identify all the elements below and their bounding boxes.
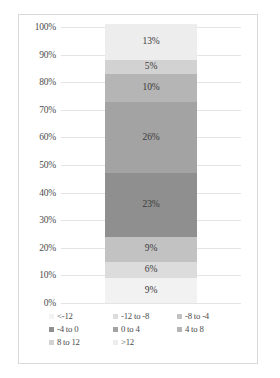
legend-swatch: [113, 340, 118, 345]
legend-item[interactable]: -8 to -4: [177, 311, 239, 321]
legend-swatch: [113, 314, 118, 319]
legend-swatch: [177, 327, 182, 332]
y-axis-tick-label: 10%: [39, 270, 56, 280]
bar-segment-value-label: 13%: [143, 37, 160, 47]
bar-segment[interactable]: 10%: [105, 74, 197, 102]
bar-segment-value-label: 10%: [143, 83, 160, 93]
y-axis-tick-label: 30%: [39, 215, 56, 225]
chart-frame: 0%10%20%30%40%50%60%70%80%90%100% 9%6%9%…: [18, 14, 258, 364]
legend-label: <-12: [57, 311, 73, 321]
legend-swatch: [49, 340, 54, 345]
y-axis-tick-label: 20%: [39, 243, 56, 253]
bar-segment[interactable]: 9%: [105, 237, 197, 262]
y-axis-tick-label: 100%: [35, 22, 56, 32]
legend-label: 4 to 8: [185, 324, 204, 334]
y-axis-tick-label: 60%: [39, 132, 56, 142]
bar-segment-value-label: 9%: [145, 286, 157, 296]
legend-item[interactable]: 8 to 12: [49, 337, 111, 347]
legend: <-12-12 to -8-8 to -4-4 to 00 to 44 to 8…: [49, 311, 239, 347]
bar-segment[interactable]: 9%: [105, 278, 197, 303]
y-axis-tick-label: 80%: [39, 77, 56, 87]
bar-segment-value-label: 23%: [143, 200, 160, 210]
legend-item[interactable]: -12 to -8: [113, 311, 175, 321]
legend-label: 8 to 12: [57, 337, 80, 347]
legend-label: -12 to -8: [121, 311, 149, 321]
y-axis-tick-label: 90%: [39, 50, 56, 60]
bar-segment-value-label: 9%: [145, 244, 157, 254]
gridline: [61, 303, 241, 304]
legend-item[interactable]: 4 to 8: [177, 324, 239, 334]
bar-segment[interactable]: 13%: [105, 24, 197, 60]
y-axis-tick-label: 50%: [39, 160, 56, 170]
bar-segment[interactable]: 23%: [105, 173, 197, 236]
stacked-bar[interactable]: 9%6%9%23%26%10%5%13%: [105, 27, 197, 303]
legend-label: >12: [121, 337, 134, 347]
legend-item[interactable]: -4 to 0: [49, 324, 111, 334]
y-axis-tick-label: 70%: [39, 105, 56, 115]
bar-segment-value-label: 5%: [145, 62, 157, 72]
legend-label: 0 to 4: [121, 324, 140, 334]
legend-swatch: [49, 314, 54, 319]
bar-segment[interactable]: 26%: [105, 102, 197, 174]
y-axis-tick-label: 0%: [44, 298, 56, 308]
legend-label: -4 to 0: [57, 324, 78, 334]
bar-segment-value-label: 6%: [145, 265, 157, 275]
legend-item[interactable]: >12: [113, 337, 175, 347]
legend-label: -8 to -4: [185, 311, 209, 321]
bar-segment[interactable]: 5%: [105, 60, 197, 74]
legend-swatch: [49, 327, 54, 332]
legend-item[interactable]: <-12: [49, 311, 111, 321]
plot-area: 0%10%20%30%40%50%60%70%80%90%100% 9%6%9%…: [61, 27, 241, 303]
bar-segment-value-label: 26%: [143, 133, 160, 143]
legend-swatch: [113, 327, 118, 332]
y-axis-tick-label: 40%: [39, 188, 56, 198]
legend-item[interactable]: 0 to 4: [113, 324, 175, 334]
legend-swatch: [177, 314, 182, 319]
bar-segment[interactable]: 6%: [105, 262, 197, 279]
